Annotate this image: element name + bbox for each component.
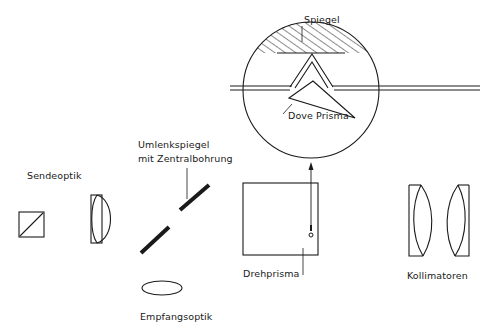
mirror-hatch xyxy=(240,22,385,53)
label-dove-prisma: Dove Prisma xyxy=(288,110,349,121)
label-umlenkspiegel-line1: Umlenkspiegel xyxy=(138,139,210,150)
beam-lines xyxy=(230,86,480,90)
empfangsoptik-lens xyxy=(142,281,182,295)
drehprisma-box xyxy=(243,183,318,255)
sendeoptik-beamsplitter xyxy=(19,212,44,237)
label-umlenkspiegel-line2: mit Zentralbohrung xyxy=(138,153,233,164)
detail-circle-view xyxy=(230,22,480,158)
label-spiegel: Spiegel xyxy=(304,14,340,25)
label-sendeoptik: Sendeoptik xyxy=(27,170,81,181)
sendeoptik-lens xyxy=(91,195,111,243)
detail-arrow xyxy=(309,162,314,237)
kollimatoren-lenses xyxy=(409,185,469,256)
label-drehprisma: Drehprisma xyxy=(243,268,299,279)
label-empfangsoptik: Empfangsoptik xyxy=(140,311,212,322)
umlenkspiegel xyxy=(141,185,209,253)
label-kollimatoren: Kollimatoren xyxy=(407,270,468,281)
